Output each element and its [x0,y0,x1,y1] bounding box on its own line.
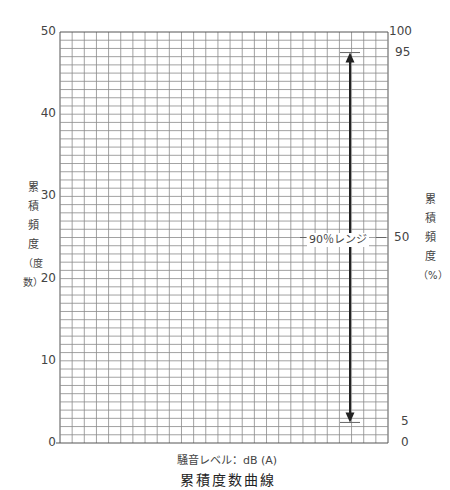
cumulative-frequency-chart [0,0,450,490]
left-axis-label-char: 累 [26,178,40,197]
left-axis-label-char: 積 [26,197,40,216]
left-tick-10: 10 [26,354,56,366]
right-axis-label-char: （%） [418,266,442,285]
left-axis-label-char: 度 [26,235,40,254]
right-axis-label-char: 積 [423,209,437,228]
left-tick-40: 40 [26,107,56,119]
right-tick-0: 0 [401,436,409,448]
x-axis-label: 騒音レベル：dB (A) [177,451,277,467]
range-label: 90％レンジ [307,233,369,247]
right-axis-label-char: 頻 [423,228,437,247]
right-axis-label-char: 度 [423,247,437,266]
right-tick-5: 5 [401,415,409,427]
chart-title: 累積度数曲線 [180,469,276,489]
right-tick-100: 100 [389,25,412,37]
right-axis-label-char: 累 [423,190,437,209]
right-tick-95: 95 [395,46,410,58]
right-tick-50: 50 [394,231,409,243]
left-axis-label-char: （度 [21,254,45,273]
left-axis-label-char: 頻 [26,216,40,235]
left-tick-50: 50 [26,25,56,37]
left-axis-label-char: 数） [21,273,45,292]
left-tick-0: 0 [26,436,56,448]
